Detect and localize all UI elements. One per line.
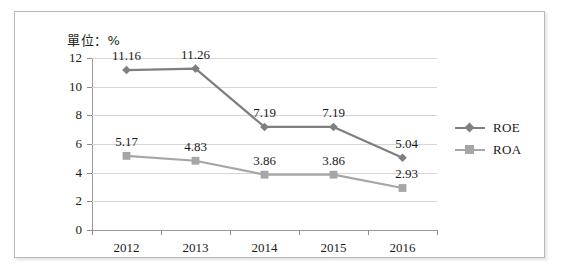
data-point-roa-2013 [192, 157, 200, 165]
x-axis-tick-label: 2015 [304, 240, 364, 256]
y-axis-tick-label: 4 [42, 165, 82, 181]
data-label-roa-2012: 5.17 [115, 134, 138, 150]
data-label-roe-2015: 7.19 [322, 105, 345, 121]
legend-label: ROE [485, 120, 520, 136]
data-point-roa-2016 [399, 184, 407, 192]
y-axis-tick-label: 10 [42, 79, 82, 95]
legend-marker-square-icon [465, 145, 474, 154]
data-label-roe-2013: 11.26 [181, 47, 210, 63]
x-axis-tick [368, 230, 369, 235]
data-label-roa-2014: 3.86 [253, 153, 276, 169]
data-label-roe-2016: 5.04 [395, 136, 418, 152]
data-point-roe-2012 [122, 66, 131, 75]
legend-swatch-roa-icon [455, 143, 485, 157]
data-point-roe-2016 [398, 153, 407, 162]
legend-item-roe[interactable]: ROE [455, 117, 545, 139]
y-axis-tick-label: 0 [42, 222, 82, 238]
x-axis-tick-label: 2014 [235, 240, 295, 256]
data-point-roa-2015 [330, 171, 338, 179]
legend-item-roa[interactable]: ROA [455, 139, 545, 161]
data-point-roa-2012 [123, 152, 131, 160]
y-axis-tick-label: 12 [42, 50, 82, 66]
legend-swatch-roe-icon [455, 121, 485, 135]
y-axis-tick-label: 8 [42, 107, 82, 123]
x-axis-tick-label: 2013 [166, 240, 226, 256]
x-axis-tick [161, 230, 162, 235]
x-axis-tick [299, 230, 300, 235]
x-axis-tick [92, 230, 93, 235]
chart-frame: 單位：% 024681012 20122013201420152016 11.1… [14, 11, 545, 258]
x-axis-tick-label: 2016 [373, 240, 433, 256]
x-axis-tick-label: 2012 [97, 240, 157, 256]
data-label-roa-2016: 2.93 [395, 166, 418, 182]
series-layer [92, 58, 437, 230]
x-axis-tick [230, 230, 231, 235]
x-axis-line [92, 230, 437, 231]
x-axis-tick [437, 230, 438, 235]
legend-marker-diamond-icon [465, 123, 475, 133]
data-label-roe-2014: 7.19 [253, 105, 276, 121]
legend: ROEROA [455, 117, 545, 161]
y-axis-tick-label: 2 [42, 193, 82, 209]
data-label-roa-2013: 4.83 [184, 139, 207, 155]
unit-label: 單位：% [67, 30, 120, 49]
data-point-roe-2015 [329, 123, 338, 132]
legend-label: ROA [485, 142, 522, 158]
data-label-roa-2015: 3.86 [322, 153, 345, 169]
data-label-roe-2012: 11.16 [112, 48, 141, 64]
data-point-roa-2014 [261, 171, 269, 179]
y-axis-tick-label: 6 [42, 136, 82, 152]
plot-area: 024681012 20122013201420152016 11.1611.2… [92, 58, 437, 230]
